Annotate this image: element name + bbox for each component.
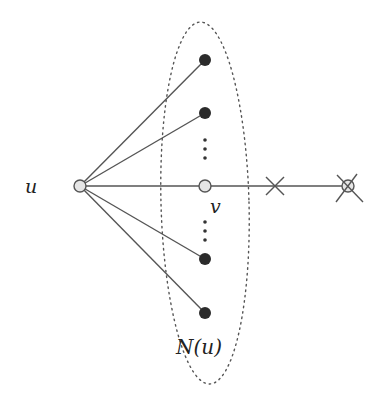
node-cross-marker	[336, 174, 363, 202]
ellipsis-dots-upper	[203, 138, 207, 160]
neighborhood-ellipse	[156, 21, 253, 385]
edge-u-n4	[80, 186, 205, 313]
edges	[80, 60, 348, 313]
label-neighborhood: N(u)	[175, 335, 222, 359]
edge-u-n1	[80, 60, 205, 186]
label-u: u	[25, 175, 37, 197]
ellipsis-dots-lower	[203, 220, 207, 242]
diagram-canvas: u v N(u)	[0, 0, 385, 402]
edge-u-n3	[80, 186, 205, 259]
graph-diagram: u v N(u)	[0, 0, 385, 402]
label-v: v	[210, 195, 221, 217]
node-neighbor-3	[199, 253, 211, 265]
node-neighbor-2	[199, 107, 211, 119]
node-v	[199, 180, 211, 192]
node-u	[74, 180, 86, 192]
node-neighbor-1	[199, 54, 211, 66]
node-neighbor-4	[199, 307, 211, 319]
